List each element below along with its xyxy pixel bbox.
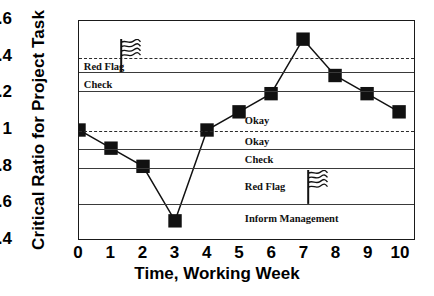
data-point-marker [104,141,117,154]
y-axis-tick-label: 0.4 [0,229,12,249]
y-axis-tick [78,204,79,205]
y-axis-title: Critical Ratio for Project Task [29,5,49,255]
x-axis-tick [401,239,402,240]
data-point-marker [79,123,86,136]
data-point-marker [232,105,245,118]
y-axis-tick [78,131,79,132]
y-axis-minor-tick [78,223,79,224]
x-axis-tick [304,239,305,240]
x-axis-tick [337,239,338,240]
data-point-marker [296,32,309,45]
x-axis-tick [111,239,112,240]
y-axis-minor-tick [78,76,79,77]
data-point-marker [168,214,181,227]
y-axis-tick [78,168,79,169]
reference-line-check-upper-bound [79,91,414,92]
zone-okay-lower: Okay [245,136,270,147]
reference-line-red-flag-upper-bound [79,72,414,73]
reference-line-okay-lower-bound [79,149,414,150]
flag-icon-lower [306,170,330,204]
data-point-marker [392,105,405,118]
data-point-marker [328,69,341,82]
critical-ratio-chart: Critical Ratio for Project Task Time, Wo… [0,0,434,296]
flag-icon-upper [119,39,143,72]
x-axis-tick [79,239,80,240]
y-axis-tick [78,94,79,95]
data-point-marker [264,87,277,100]
zone-check-upper: Check [84,79,113,90]
y-axis-tick-label: 0.8 [0,156,12,176]
reference-line-check-lower-bound [79,168,414,169]
x-axis-tick [272,239,273,240]
x-axis-tick-label: 10 [380,243,420,263]
y-axis-tick-label: 0.6 [0,192,12,212]
x-axis-tick [176,239,177,240]
data-point-marker [136,160,149,173]
x-axis-tick [143,239,144,240]
zone-okay-upper: Okay [245,115,270,126]
x-axis-tick [208,239,209,240]
y-axis-minor-tick [78,186,79,187]
zone-inform-management: Inform Management [245,213,339,224]
zone-red-flag-lower: Red Flag [245,181,286,192]
y-axis-tick [78,58,79,59]
y-axis-tick-label: 1.6 [0,9,12,29]
x-axis-tick [369,239,370,240]
reference-line-mid-dashed-1-0 [79,131,414,132]
x-axis-title: Time, Working Week [0,264,434,284]
data-point-marker [360,87,373,100]
y-axis-tick [78,21,79,22]
reference-line-red-flag-lower-bound [79,204,414,205]
zone-check-lower: Check [245,154,274,165]
y-axis-minor-tick [78,149,79,150]
y-axis-minor-tick [78,39,79,40]
y-axis-tick-label: 1 [0,119,12,139]
y-axis-minor-tick [78,113,79,114]
y-axis-tick-label: 1.4 [0,46,12,66]
data-point-marker [200,123,213,136]
x-axis-tick [240,239,241,240]
plot-area: Red FlagCheckOkayOkayCheckRed FlagInform… [78,20,415,240]
y-axis-tick-label: 1.2 [0,82,12,102]
